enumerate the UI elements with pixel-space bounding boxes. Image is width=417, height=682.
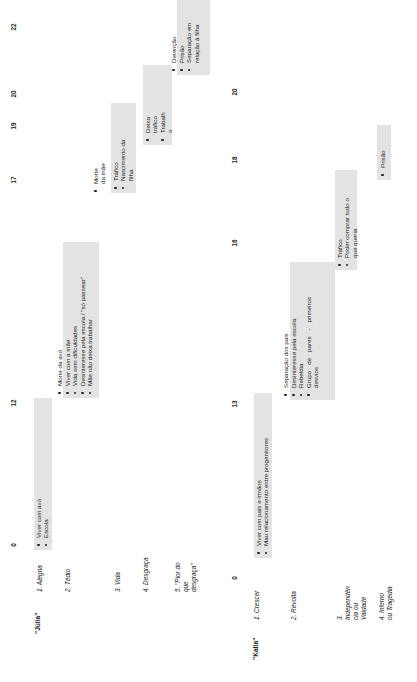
event-item: Prisão (178, 10, 185, 72)
event-item: Viver com avó (35, 499, 42, 547)
event-item: Rebeldia (297, 297, 304, 397)
event-item: Vida sem dificuldades (71, 277, 78, 395)
event-item: Tráfico (336, 197, 343, 267)
age-tick: 0 (231, 568, 239, 588)
age-tick: 17 (10, 170, 18, 190)
stage-label-alegria: 1. Alegria (36, 556, 44, 592)
event-item: Nascimento da filha (119, 130, 134, 190)
event-item: Escola (42, 499, 49, 547)
stage-box-independencia-ou-vaidade: Tráfico Poder comprar tudo o que queria (335, 170, 357, 270)
age-tick: 20 (231, 82, 239, 102)
event-item: Morteda mãe (92, 148, 107, 193)
stage-label-vida: 3. Vida (114, 556, 122, 592)
event-item: Desinteresse pela escola (290, 297, 297, 397)
stage-label-crescer: 1. Crescer (253, 584, 261, 620)
timeline-page: "Júlia" 0 12 17 19 20 22 1. Alegria 2. T… (0, 0, 417, 682)
stage-box-revolta: Desinteresse pela escola Rebeldia Grupo … (290, 262, 335, 400)
event-item: Grupo de pares - primeiros desvios (305, 297, 320, 397)
stage-box-pior-do-que-desgraca: Prisão Separação em relação à filha (177, 0, 210, 75)
stage-label-inferno-ou-tragedia: 4. Inferno ou Tragédia (378, 586, 394, 620)
stage-label-revolta: 2. Revolta (290, 584, 298, 620)
event-item: Deixatráfico (144, 102, 159, 142)
stage-label-pior-do-que-desgraca: 5. "Pior do que desgraça" (174, 560, 198, 592)
event-item: Viver com a mãe (64, 277, 71, 395)
age-tick: 19 (10, 116, 18, 136)
event-item: Viver com pais e irmãos (255, 438, 262, 555)
event-item: Mãe não deixa trabalhar (86, 277, 93, 395)
age-tick: 20 (10, 84, 18, 104)
event-item: Separação em relação à filha (185, 10, 200, 72)
person-label-julia: "Júlia" (34, 613, 42, 634)
stage-label-tedio: 2. Tédio (64, 556, 72, 592)
event-item: Trabalho (159, 102, 174, 142)
age-tick: 0 (10, 535, 18, 555)
event-item: Separação dos pais (282, 333, 289, 397)
event-item: Tráfico (112, 130, 119, 190)
stage-label-independencia-ou-vaidade: 3. Independên cia ou Vaidade (336, 590, 368, 620)
stage-box-crescer: Viver com pais e irmãos Mau relacionamen… (254, 393, 272, 558)
age-tick: 12 (10, 393, 18, 413)
stage-box-vida: Tráfico Nascimento da filha (111, 103, 136, 193)
age-tick: 13 (231, 394, 239, 414)
event-item: Mau relacionamento entre progenitores (262, 438, 269, 555)
stage-box-tedio: Viver com a mãe Vida sem dificuldades De… (63, 242, 99, 398)
age-tick: 16 (231, 233, 239, 253)
stage-box-desgraca: Deixatráfico Trabalho (143, 65, 172, 145)
event-item: Prisão (379, 150, 386, 177)
person-label-katia: "Katia" (252, 638, 260, 660)
event-item: Desinteresse pela escola / "só passear" (79, 277, 86, 395)
stage-label-desgraca: 4. Desgraça (142, 556, 150, 592)
stage-box-inferno-ou-tragedia: Prisão (377, 125, 391, 180)
stage-box-alegria: Viver com avó Escola (34, 398, 52, 550)
event-item: Poder comprar tudo o que queria (343, 197, 358, 267)
age-tick: 18 (231, 150, 239, 170)
age-tick: 22 (10, 17, 18, 37)
